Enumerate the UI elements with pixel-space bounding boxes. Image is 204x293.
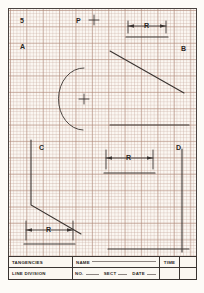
- dimension-label-r-top-right: R: [144, 22, 149, 29]
- time-label: TIME: [164, 260, 176, 265]
- line-b-diagonal: [110, 51, 184, 93]
- title-block-name-row[interactable]: NAME: [73, 257, 159, 268]
- center-mark-p: [89, 15, 99, 25]
- no-field-group[interactable]: NO.: [73, 271, 102, 276]
- label-B: B: [181, 45, 186, 52]
- exercise-title-line2: LINE DIVISION: [9, 271, 46, 276]
- blank-row-bottom[interactable]: [180, 268, 196, 279]
- time-write-in-field[interactable]: [160, 268, 179, 279]
- dimension-label-r-bottom-left: R: [46, 226, 51, 233]
- drawing-geometry: [9, 9, 197, 280]
- name-label: NAME: [73, 260, 90, 265]
- title-block-meta-row: NO. SECT DATE: [73, 268, 159, 279]
- label-5: 5: [20, 17, 24, 24]
- label-A: A: [20, 43, 25, 50]
- title-block-blank-cell: [180, 257, 196, 279]
- worksheet-sheet: 5 P A B C D R R R TANGENCIES LINE DIVISI…: [0, 0, 204, 293]
- name-write-in-field[interactable]: [92, 261, 156, 262]
- date-field-group[interactable]: DATE: [130, 271, 159, 276]
- drawing-frame: 5 P A B C D R R R: [8, 8, 197, 280]
- date-write-in-field[interactable]: [147, 274, 156, 275]
- title-block-time-cell: TIME: [160, 257, 180, 279]
- exercise-title-line1: TANGENCIES: [9, 260, 43, 265]
- sect-label: SECT: [102, 271, 117, 276]
- title-block-identity-cell: NAME NO. SECT DATE: [73, 257, 160, 279]
- dimension-label-r-middle-right: R: [126, 154, 131, 161]
- no-write-in-field[interactable]: [86, 274, 99, 275]
- title-block-exercise-row-1: TANGENCIES: [9, 257, 72, 268]
- title-block-exercise-cell: TANGENCIES LINE DIVISION: [9, 257, 73, 279]
- time-label-row: TIME: [160, 257, 179, 268]
- date-label: DATE: [130, 271, 145, 276]
- sect-field-group[interactable]: SECT: [102, 271, 131, 276]
- sect-write-in-field[interactable]: [118, 274, 127, 275]
- line-c-polyline: [31, 140, 81, 234]
- no-label: NO.: [73, 271, 84, 276]
- title-block: TANGENCIES LINE DIVISION NAME NO. SECT: [8, 256, 197, 280]
- title-block-exercise-row-2: LINE DIVISION: [9, 268, 72, 279]
- label-P: P: [76, 17, 81, 24]
- blank-row-top[interactable]: [180, 257, 196, 268]
- label-D: D: [176, 144, 181, 151]
- label-C: C: [39, 144, 44, 151]
- center-mark-arc: [79, 94, 89, 104]
